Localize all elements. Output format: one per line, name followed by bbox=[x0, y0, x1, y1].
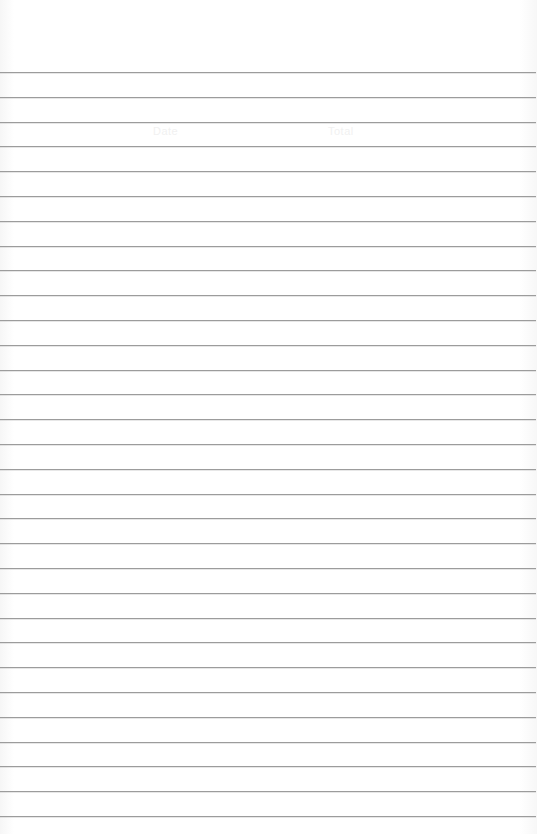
ruled-line bbox=[0, 122, 536, 123]
ruled-line bbox=[0, 742, 536, 743]
ruled-line bbox=[0, 345, 536, 346]
ruled-line bbox=[0, 692, 536, 693]
ruled-line bbox=[0, 543, 536, 544]
bleed-through-text-date: Date bbox=[153, 125, 178, 137]
ruled-line bbox=[0, 370, 536, 371]
ruled-line bbox=[0, 196, 536, 197]
ruled-line bbox=[0, 816, 536, 817]
ruled-line bbox=[0, 444, 536, 445]
ruled-line bbox=[0, 568, 536, 569]
ruled-line bbox=[0, 270, 536, 271]
ruled-line bbox=[0, 97, 536, 98]
ruled-line bbox=[0, 295, 536, 296]
ruled-line bbox=[0, 593, 536, 594]
ruled-line bbox=[0, 72, 536, 73]
ruled-line bbox=[0, 642, 536, 643]
ruled-line bbox=[0, 221, 536, 222]
ruled-line bbox=[0, 171, 536, 172]
ruled-line bbox=[0, 667, 536, 668]
ruled-line bbox=[0, 717, 536, 718]
ruled-line bbox=[0, 494, 536, 495]
ruled-line bbox=[0, 146, 536, 147]
ruled-line bbox=[0, 791, 536, 792]
ruled-line bbox=[0, 618, 536, 619]
ruled-line bbox=[0, 518, 536, 519]
ruled-line bbox=[0, 394, 536, 395]
ruled-line bbox=[0, 419, 536, 420]
ruled-paper-page: Date Total bbox=[0, 0, 537, 834]
ruled-line bbox=[0, 469, 536, 470]
ruled-line bbox=[0, 766, 536, 767]
ruled-line bbox=[0, 246, 536, 247]
ruled-line bbox=[0, 320, 536, 321]
bleed-through-text-total: Total bbox=[328, 125, 354, 137]
